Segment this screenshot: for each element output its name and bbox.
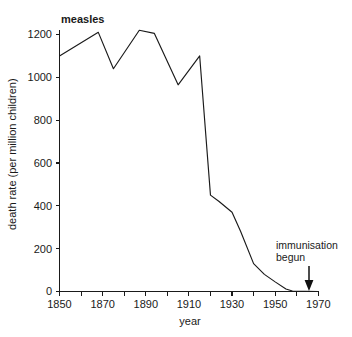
x-axis-ticks: [60, 292, 319, 296]
x-tick-label: 1890: [134, 298, 158, 310]
x-axis-tick-labels: 1850 1870 1890 1910 1930 1950 1970: [47, 298, 330, 310]
y-axis-tick-labels: 0 200 400 600 800 1000 1200: [28, 28, 52, 297]
x-tick-label: 1970: [306, 298, 330, 310]
x-tick-label: 1950: [263, 298, 287, 310]
chart-title: measles: [61, 13, 104, 25]
y-tick-label: 1200: [28, 28, 52, 40]
y-axis-ticks: [56, 35, 60, 292]
annotation-line-1: immunisation: [276, 239, 338, 251]
y-tick-label: 200: [34, 243, 52, 255]
x-tick-label: 1870: [90, 298, 114, 310]
y-tick-label: 0: [46, 285, 52, 297]
chart-figure: measles death rate (per million children…: [0, 0, 352, 337]
x-tick-label: 1910: [177, 298, 201, 310]
x-axis-label: year: [179, 315, 201, 327]
x-tick-label: 1930: [220, 298, 244, 310]
measles-line-chart: measles death rate (per million children…: [0, 0, 352, 337]
annotation-line-2: begun: [276, 251, 305, 263]
y-tick-label: 600: [34, 157, 52, 169]
x-tick-label: 1850: [47, 298, 71, 310]
y-tick-label: 800: [34, 114, 52, 126]
y-tick-label: 400: [34, 200, 52, 212]
annotation-arrow-head: [305, 280, 314, 291]
y-tick-label: 1000: [28, 71, 52, 83]
y-axis-label: death rate (per million children): [6, 78, 18, 230]
annotation-immunisation-begun: immunisation begun: [276, 239, 338, 291]
